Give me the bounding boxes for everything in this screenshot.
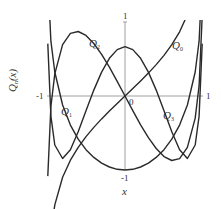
chart-plot-area [0,0,221,209]
label-q0: Q0 [172,40,183,52]
origin-label: 0 [129,98,134,107]
label-q3: Q3 [163,110,174,122]
label-q2: Q2 [89,38,100,50]
y-tick-bottom-label: -1 [121,174,129,183]
x-axis-label: x [122,186,127,197]
label-q1: Q1 [61,106,72,118]
x-tick-left-label: -1 [36,92,44,101]
y-axis-label: Qn(x) [6,69,19,92]
x-tick-right-label: 1 [206,92,211,101]
y-tick-top-label: 1 [123,12,128,21]
